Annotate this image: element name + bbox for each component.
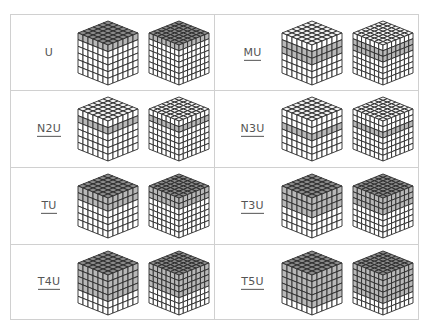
move-notation-table: U MU N2U N3U TU T3U T4U T5U [10, 14, 419, 320]
cube-7x7-diagram [350, 172, 416, 240]
cube-6x6-diagram [75, 172, 141, 240]
cube-7x7-diagram [146, 249, 212, 317]
cube-6x6-diagram [279, 172, 345, 240]
cube-7x7-diagram [350, 19, 416, 87]
cube-6x6-diagram [75, 95, 141, 163]
cube-6x6-diagram [279, 95, 345, 163]
cell-u: U [11, 15, 215, 91]
move-label: T3U [233, 199, 273, 212]
move-label: U [29, 45, 69, 58]
move-label: T5U [233, 275, 273, 288]
cell-n3u: N3U [215, 91, 419, 168]
cube-7x7-diagram [350, 249, 416, 317]
move-label: N3U [233, 122, 273, 135]
cell-n2u: N2U [11, 91, 215, 168]
move-label: N2U [29, 122, 69, 135]
cell-t3u: T3U [215, 168, 419, 245]
cube-7x7-diagram [350, 95, 416, 163]
move-label: MU [233, 45, 273, 58]
cell-mu: MU [215, 15, 419, 91]
cell-tu: TU [11, 168, 215, 245]
move-label: T4U [29, 275, 69, 288]
cell-t5u: T5U [215, 245, 419, 319]
cube-6x6-diagram [279, 19, 345, 87]
cube-6x6-diagram [279, 249, 345, 317]
cell-t4u: T4U [11, 245, 215, 319]
cube-7x7-diagram [146, 95, 212, 163]
cube-7x7-diagram [146, 172, 212, 240]
move-label: TU [29, 199, 69, 212]
cube-6x6-diagram [75, 19, 141, 87]
cube-6x6-diagram [75, 249, 141, 317]
cube-7x7-diagram [146, 19, 212, 87]
